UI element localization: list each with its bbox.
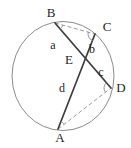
- point-label-c: C: [103, 19, 112, 34]
- segment-label-b: b: [89, 42, 95, 56]
- angle-mark-a: [61, 122, 64, 125]
- segment-label-d: d: [59, 81, 65, 95]
- point-label-d: D: [116, 80, 125, 95]
- angle-mark-b: [60, 25, 63, 29]
- point-label-a: A: [55, 130, 65, 145]
- point-label-e: E: [65, 52, 73, 67]
- segment-label-c: c: [98, 65, 103, 79]
- point-label-b: B: [47, 5, 56, 20]
- segment-label-a: a: [50, 38, 56, 52]
- diagram-canvas: B C D A E a b c d: [0, 0, 131, 148]
- angle-mark-c: [88, 32, 92, 40]
- geometry-diagram: B C D A E a b c d: [0, 0, 131, 148]
- angle-mark-d: [104, 83, 106, 93]
